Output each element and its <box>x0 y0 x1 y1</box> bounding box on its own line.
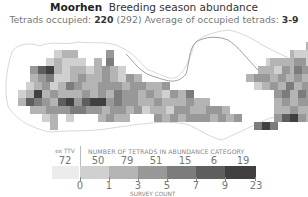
tetrad-cell <box>206 106 214 114</box>
tick-label-2: 3 <box>128 180 148 191</box>
tetrad-cell <box>162 90 170 98</box>
tetrad-cell <box>130 90 138 98</box>
tetrad-cell <box>46 74 54 82</box>
tetrad-cell <box>282 106 290 114</box>
tetrad-cell <box>274 90 282 98</box>
tetrad-cell <box>58 82 66 90</box>
tetrad-cell <box>302 74 308 82</box>
tetrad-cell <box>170 98 178 106</box>
tetrad-cell <box>110 74 118 82</box>
tetrad-cell <box>54 74 62 82</box>
tetrad-cell <box>278 82 286 90</box>
legend-count-6: 19 <box>229 155 257 166</box>
tetrad-cell <box>286 82 294 90</box>
abundance-map <box>0 0 308 150</box>
legend-swatch-extv <box>52 166 79 179</box>
tetrad-cell <box>42 114 50 122</box>
tetrad-cell <box>166 106 174 114</box>
tetrad-cell <box>122 82 130 90</box>
tetrad-cell <box>82 90 90 98</box>
tetrad-cell <box>282 98 290 106</box>
tetrad-cell <box>286 58 294 66</box>
tetrad-cell <box>270 122 278 130</box>
tetrad-cell <box>110 106 118 114</box>
tetrad-cell <box>62 66 70 74</box>
tetrad-cell <box>306 98 308 106</box>
tetrad-cell <box>298 106 306 114</box>
tetrad-cell <box>122 114 130 122</box>
tetrad-cell <box>218 114 226 122</box>
tetrad-cell <box>94 74 102 82</box>
tetrad-cell <box>102 66 110 74</box>
tetrad-cell <box>70 50 78 58</box>
tetrad-cell <box>30 66 38 74</box>
tetrad-cell <box>82 82 90 90</box>
tetrad-cell <box>154 82 162 90</box>
tetrad-cell <box>98 82 106 90</box>
tetrad-cell <box>70 66 78 74</box>
legend-count-4: 15 <box>171 155 199 166</box>
tetrad-cell <box>290 98 298 106</box>
tetrad-cell <box>194 98 202 106</box>
tetrad-cell <box>202 114 210 122</box>
tetrad-cell <box>106 98 114 106</box>
tetrad-cell <box>278 74 286 82</box>
tetrad-cell <box>94 106 102 114</box>
tetrad-cell <box>122 90 130 98</box>
tetrad-cell <box>254 122 262 130</box>
tetrad-cell <box>90 82 98 90</box>
tetrad-cell <box>90 98 98 106</box>
tetrad-cell <box>114 82 122 90</box>
tetrad-cell <box>190 106 198 114</box>
tetrad-cell <box>70 106 78 114</box>
tick-label-5: 9 <box>215 180 235 191</box>
tetrad-cell <box>306 90 308 98</box>
tetrad-cell <box>54 50 62 58</box>
tetrad-cell <box>290 90 298 98</box>
tetrad-cell <box>234 114 242 122</box>
tetrad-cell <box>306 114 308 122</box>
tetrad-cell <box>302 66 308 74</box>
tetrad-cell <box>270 82 278 90</box>
tetrad-cell <box>66 82 74 90</box>
tetrad-cell <box>274 114 282 122</box>
tetrad-cell <box>138 90 146 98</box>
tetrad-cell <box>98 114 106 122</box>
tetrad-cell <box>50 90 58 98</box>
tetrad-cell <box>178 114 186 122</box>
tetrad-cell <box>126 74 134 82</box>
tetrad-cell <box>262 122 270 130</box>
tetrad-cell <box>170 114 178 122</box>
tetrad-cell <box>174 106 182 114</box>
tetrad-cell <box>286 74 294 82</box>
tetrad-cell <box>298 90 306 98</box>
tetrad-cell <box>118 74 126 82</box>
tetrad-cell <box>298 50 306 58</box>
tetrad-cell <box>302 82 308 90</box>
tetrad-cell <box>182 106 190 114</box>
tetrad-cell <box>254 74 262 82</box>
tetrad-cell <box>294 82 302 90</box>
legend-count-2: 79 <box>113 155 141 166</box>
tetrad-cell <box>246 74 254 82</box>
tetrad-cell <box>126 106 134 114</box>
tetrad-cell <box>50 82 58 90</box>
tetrad-cell <box>30 106 38 114</box>
tetrad-cell <box>42 82 50 90</box>
tetrad-cell <box>146 98 154 106</box>
tetrad-cell <box>54 58 62 66</box>
tetrad-cell <box>18 98 26 106</box>
tetrad-cell <box>254 82 262 90</box>
tetrad-cell <box>78 66 86 74</box>
tetrad-cell <box>274 66 282 74</box>
tetrad-cell <box>210 114 218 122</box>
legend-swatch-2 <box>109 166 138 179</box>
tetrad-cell <box>162 114 170 122</box>
tetrad-cell <box>30 74 38 82</box>
tetrad-cell <box>150 106 158 114</box>
tetrad-cell <box>298 58 306 66</box>
tetrad-cell <box>294 74 302 82</box>
tick-label-0: 0 <box>70 180 90 191</box>
tetrad-cell <box>270 74 278 82</box>
tetrad-cell <box>38 74 46 82</box>
